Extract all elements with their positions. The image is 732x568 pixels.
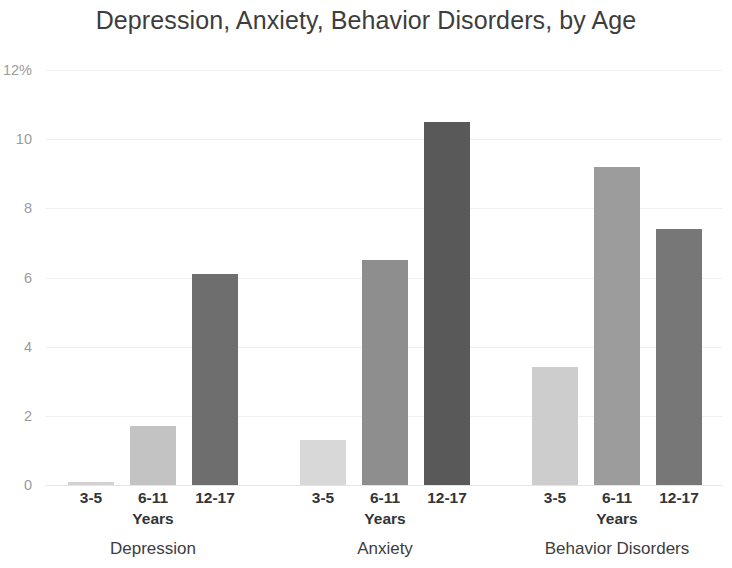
x-axis-years-label: Years bbox=[596, 510, 637, 528]
y-axis-tick-label: 2 bbox=[0, 408, 32, 424]
x-axis-age-label: 12-17 bbox=[427, 489, 467, 507]
y-axis-tick-label: 8 bbox=[0, 200, 32, 216]
x-axis-age-label: 12-17 bbox=[195, 489, 235, 507]
gridline bbox=[46, 139, 722, 140]
y-axis-tick-label: 10 bbox=[0, 131, 32, 147]
x-axis-age-label: 3-5 bbox=[312, 489, 334, 507]
bar bbox=[594, 167, 640, 485]
x-axis-age-label: 6-11 bbox=[138, 489, 168, 507]
group-label: Behavior Disorders bbox=[545, 539, 690, 559]
bar bbox=[300, 440, 346, 485]
chart-title: Depression, Anxiety, Behavior Disorders,… bbox=[0, 6, 732, 35]
bar bbox=[424, 122, 470, 485]
x-axis-age-label: 3-5 bbox=[544, 489, 566, 507]
bar bbox=[532, 367, 578, 485]
x-axis-age-label: 3-5 bbox=[80, 489, 102, 507]
x-axis-years-label: Years bbox=[132, 510, 173, 528]
bar bbox=[362, 260, 408, 485]
bar bbox=[68, 482, 114, 485]
bar bbox=[192, 274, 238, 485]
gridline bbox=[46, 70, 722, 71]
bar bbox=[656, 229, 702, 485]
y-axis-tick-label: 12% bbox=[0, 62, 32, 78]
x-axis-age-label: 6-11 bbox=[370, 489, 400, 507]
group-label: Depression bbox=[110, 539, 196, 559]
x-axis-age-label: 6-11 bbox=[602, 489, 632, 507]
gridline bbox=[46, 485, 722, 486]
y-axis-tick-label: 6 bbox=[0, 270, 32, 286]
x-axis-age-label: 12-17 bbox=[659, 489, 699, 507]
group-label: Anxiety bbox=[357, 539, 413, 559]
bar bbox=[130, 426, 176, 485]
y-axis-tick-label: 4 bbox=[0, 339, 32, 355]
plot-area: 12%1086420 bbox=[46, 70, 722, 485]
y-axis-tick-label: 0 bbox=[0, 477, 32, 493]
x-axis-years-label: Years bbox=[364, 510, 405, 528]
bar-chart: Depression, Anxiety, Behavior Disorders,… bbox=[0, 0, 732, 568]
